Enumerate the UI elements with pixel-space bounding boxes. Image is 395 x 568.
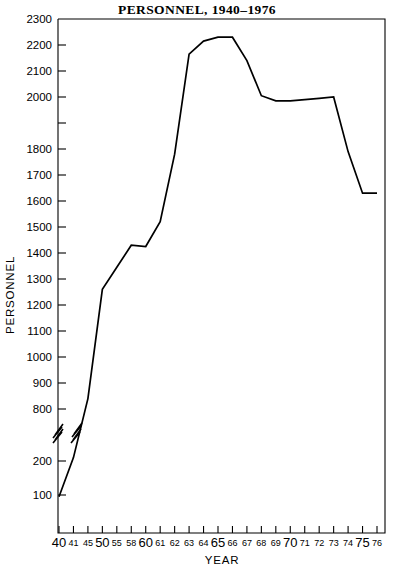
x-label-70: 70: [283, 535, 297, 550]
x-label-41: 41: [68, 538, 78, 548]
y-label-800: 800: [33, 403, 52, 415]
y-label-2100: 2100: [26, 65, 52, 77]
x-label-65: 65: [211, 535, 225, 550]
y-label-100: 100: [33, 489, 52, 501]
y-label-1700: 1700: [26, 169, 52, 181]
x-label-62: 62: [170, 538, 180, 548]
x-label-40: 40: [52, 535, 66, 550]
y-label-1500: 1500: [26, 221, 52, 233]
y-label-1300: 1300: [26, 273, 52, 285]
x-label-68: 68: [256, 538, 266, 548]
y-label-1000: 1000: [26, 351, 52, 363]
y-label-200: 200: [33, 455, 52, 467]
x-label-72: 72: [314, 538, 324, 548]
x-label-60: 60: [138, 535, 152, 550]
x-label-63: 63: [184, 538, 194, 548]
x-label-71: 71: [300, 538, 310, 548]
y-label-1400: 1400: [26, 247, 52, 259]
x-label-58: 58: [126, 538, 136, 548]
chart-title: PERSONNEL, 1940–1976: [118, 2, 276, 17]
x-label-76: 76: [372, 538, 382, 548]
y-label-1600: 1600: [26, 195, 52, 207]
x-label-50: 50: [95, 535, 109, 550]
y-label-2300: 2300: [26, 13, 52, 25]
data-series-line: [59, 37, 377, 497]
plot-frame: [58, 19, 385, 533]
x-label-64: 64: [199, 538, 209, 548]
x-label-69: 69: [271, 538, 281, 548]
x-label-61: 61: [155, 538, 165, 548]
x-label-45: 45: [83, 538, 93, 548]
y-label-2000: 2000: [26, 91, 52, 103]
x-label-73: 73: [329, 538, 339, 548]
y-label-1200: 1200: [26, 299, 52, 311]
x-axis-tick-labels: 4041455055586061626364656667686970717273…: [52, 535, 382, 550]
y-label-1100: 1100: [27, 325, 52, 337]
x-label-67: 67: [242, 538, 252, 548]
chart-figure: PERSONNEL, 1940–1976 2300 2200: [0, 0, 395, 568]
y-axis-title: PERSONNEL: [4, 256, 16, 334]
y-label-1800: 1800: [26, 143, 52, 155]
y-label-2200: 2200: [26, 39, 52, 51]
x-label-66: 66: [227, 538, 237, 548]
x-label-74: 74: [343, 538, 353, 548]
chart-svg: PERSONNEL, 1940–1976 2300 2200: [0, 0, 395, 568]
x-axis-ticks: [59, 526, 377, 533]
x-axis-title: YEAR: [205, 554, 240, 566]
x-label-55: 55: [112, 538, 122, 548]
y-axis-tick-labels: 2300 2200 2100 2000 1800 1700 1600 1500 …: [26, 13, 52, 501]
y-label-900: 900: [33, 377, 52, 389]
x-label-75: 75: [355, 535, 369, 550]
